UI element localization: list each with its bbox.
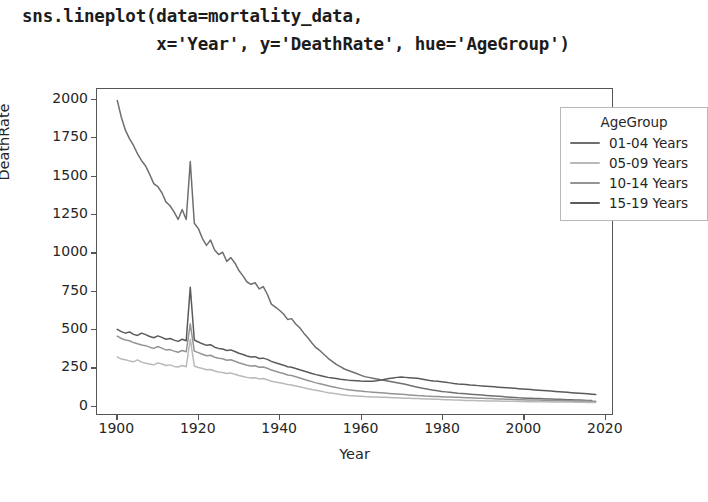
x-tick-mark (442, 415, 443, 420)
x-axis-label: Year (96, 446, 613, 462)
y-tick-mark (91, 252, 96, 253)
x-tick-mark (198, 415, 199, 420)
y-tick-label: 250 (36, 358, 88, 374)
y-tick-mark (91, 291, 96, 292)
legend-entry-1: 01-04 Years (570, 133, 698, 153)
legend-entry-label: 05-09 Years (609, 155, 688, 171)
x-tick-label: 1960 (343, 420, 379, 436)
y-tick-label: 1500 (36, 167, 88, 183)
x-tick-mark (605, 415, 606, 420)
y-axis-label: DeathRate (0, 62, 12, 222)
plot-lines (97, 89, 612, 414)
x-tick-mark (523, 415, 524, 420)
legend-title: AgeGroup (570, 114, 698, 130)
x-tick-label: 1940 (261, 420, 297, 436)
legend-entries: 01-04 Years05-09 Years10-14 Years15-19 Y… (570, 133, 698, 213)
legend-swatch-icon (570, 162, 600, 165)
y-tick-mark (91, 214, 96, 215)
y-tick-label: 2000 (36, 90, 88, 106)
y-tick-label: 500 (36, 320, 88, 336)
legend-swatch-icon (570, 142, 600, 145)
code-line-2: x='Year', y='DeathRate', hue='AgeGroup') (22, 34, 570, 54)
legend-entry-label: 15-19 Years (609, 195, 688, 211)
y-tick-label: 750 (36, 282, 88, 298)
series-line-4 (117, 287, 596, 394)
legend-entry-label: 10-14 Years (609, 175, 688, 191)
y-tick-label: 1750 (36, 128, 88, 144)
legend-swatch-icon (570, 202, 600, 205)
y-tick-mark (91, 329, 96, 330)
plot-area: AgeGroup 01-04 Years05-09 Years10-14 Yea… (96, 88, 613, 415)
y-tick-label: 1250 (36, 205, 88, 221)
legend-swatch-icon (570, 182, 600, 185)
legend-entry-label: 01-04 Years (609, 135, 688, 151)
chart-figure: DeathRate 025050075010001250150017502000… (0, 72, 703, 502)
y-tick-label: 0 (36, 397, 88, 413)
legend-entry-4: 15-19 Years (570, 193, 698, 213)
y-tick-mark (91, 99, 96, 100)
y-tick-mark (91, 406, 96, 407)
y-tick-label: 1000 (36, 243, 88, 259)
x-tick-label: 1920 (180, 420, 216, 436)
y-tick-mark (91, 137, 96, 138)
y-tick-mark (91, 176, 96, 177)
code-line-1: sns.lineplot(data=mortality_data, (22, 6, 363, 26)
legend-entry-3: 10-14 Years (570, 173, 698, 193)
code-header: sns.lineplot(data=mortality_data, x='Yea… (0, 0, 703, 72)
legend-entry-2: 05-09 Years (570, 153, 698, 173)
y-tick-label-group: 025050075010001250150017502000 (28, 88, 88, 415)
x-tick-label: 1900 (99, 420, 135, 436)
y-tick-mark (91, 367, 96, 368)
x-tick-mark (279, 415, 280, 420)
x-tick-mark (361, 415, 362, 420)
series-line-2 (117, 339, 596, 402)
legend: AgeGroup 01-04 Years05-09 Years10-14 Yea… (560, 107, 708, 221)
x-tick-label: 2000 (506, 420, 542, 436)
x-tick-label: 2020 (587, 420, 623, 436)
x-tick-mark (116, 415, 117, 420)
x-tick-label-group: 1900192019401960198020002020 (96, 420, 613, 442)
x-tick-label: 1980 (424, 420, 460, 436)
